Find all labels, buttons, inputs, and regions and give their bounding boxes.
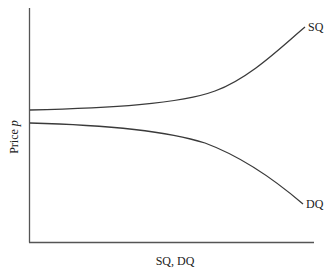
supply-demand-diagram: SQ DQ SQ, DQ Price p [0,0,334,269]
y-axis-label-var: p [7,120,21,127]
y-axis-label-text: Price [7,126,21,154]
y-axis-label: Price p [7,120,21,154]
sq-curve [30,27,305,110]
sq-curve-label: SQ [308,20,324,34]
dq-curve-label: DQ [306,197,324,211]
dq-curve [30,123,303,204]
x-axis-label: SQ, DQ [156,254,195,268]
